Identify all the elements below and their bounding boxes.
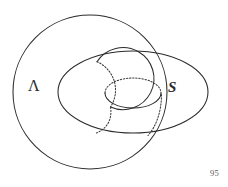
torus-outer-ellipse	[58, 51, 208, 133]
torus-tube-circle-visible-arc	[97, 48, 154, 110]
hidden-intersection-arc-right	[148, 95, 162, 136]
label-s: S	[168, 80, 176, 95]
label-lambda: Λ	[28, 78, 40, 94]
figure-container: Λ S 95	[0, 0, 228, 187]
page-number: 95	[210, 168, 219, 178]
torus-tube-circle-hidden-arc	[97, 62, 116, 107]
